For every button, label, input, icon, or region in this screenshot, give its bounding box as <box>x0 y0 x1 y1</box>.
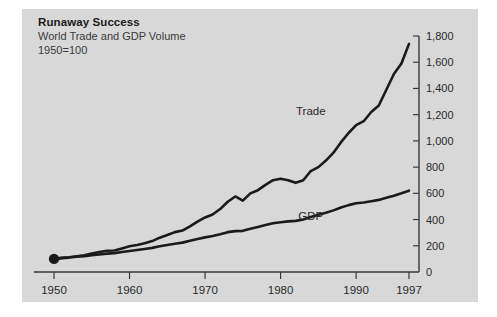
y-axis-tick-label: 0 <box>426 266 432 278</box>
y-axis-tick-label: 1,800 <box>426 30 454 42</box>
axes-group: 02004006008001,0001,2001,4001,6001,80019… <box>34 30 454 296</box>
series-line-trade <box>54 44 409 259</box>
x-axis-tick-label: 1970 <box>192 284 218 296</box>
series-line-gdp <box>54 191 409 259</box>
y-axis-tick-label: 1,600 <box>426 56 454 68</box>
x-axis-tick-label: 1960 <box>117 284 143 296</box>
x-axis-tick-label: 1997 <box>396 284 422 296</box>
y-axis-tick-label: 1,200 <box>426 109 454 121</box>
start-point-marker <box>49 254 59 264</box>
series-label-gdp: GDP <box>298 210 323 222</box>
line-chart: 02004006008001,0001,2001,4001,6001,80019… <box>0 0 497 317</box>
figure: Runaway Success World Trade and GDP Volu… <box>0 0 497 317</box>
y-axis-tick-label: 600 <box>426 187 444 199</box>
series-group <box>49 44 409 264</box>
y-axis-tick-label: 200 <box>426 240 444 252</box>
y-axis-tick-label: 1,000 <box>426 135 454 147</box>
y-axis-tick-label: 400 <box>426 214 444 226</box>
y-axis-tick-label: 800 <box>426 161 444 173</box>
x-axis-tick-label: 1980 <box>268 284 294 296</box>
y-axis-tick-label: 1,400 <box>426 82 454 94</box>
series-label-trade: Trade <box>296 105 326 117</box>
x-axis-tick-label: 1990 <box>343 284 369 296</box>
x-axis-tick-label: 1950 <box>41 284 67 296</box>
